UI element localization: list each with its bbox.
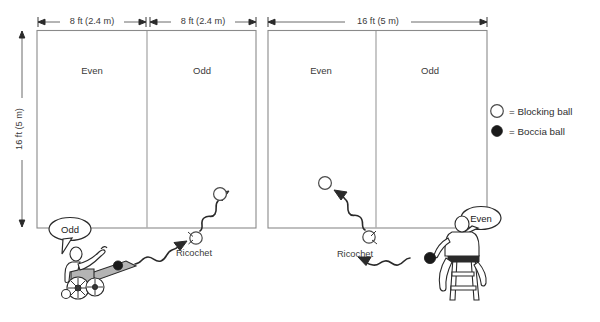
legend-item-boccia-ball: = Boccia ball (492, 126, 565, 137)
left-court-zone-odd-label: Odd (193, 65, 211, 76)
ramp-boccia-ball (113, 261, 122, 270)
right-ricochet-ball (363, 231, 377, 244)
left-blocking-ball (214, 188, 227, 201)
dimension-right-full: 16 ft (5 m) (268, 14, 487, 29)
legend-open-circle-icon (491, 105, 504, 118)
left-speech-bubble: Odd (49, 218, 91, 255)
right-bubble-label: Even (470, 213, 492, 224)
left-court-zone-even-label: Even (81, 65, 103, 76)
dimension-label-vertical: 16 ft (5 m) (14, 108, 24, 150)
legend: = Blocking ball = Boccia ball (491, 105, 573, 137)
right-ricochet-label: Ricochet (337, 249, 374, 259)
right-ball-path-second (334, 190, 365, 230)
dimension-left-half-b: 8 ft (2.4 m) (150, 14, 256, 29)
legend-filled-circle-icon (492, 126, 503, 137)
right-blocking-ball (319, 177, 332, 190)
dimension-label-right: 16 ft (5 m) (357, 16, 399, 26)
left-ricochet-ball (188, 232, 202, 244)
diagram-canvas: 8 ft (2.4 m) 8 ft (2.4 m) 16 ft (5 m) (0, 0, 600, 322)
dimension-label-left-b: 8 ft (2.4 m) (181, 16, 225, 26)
left-ricochet-label: Ricochet (176, 248, 213, 258)
right-court-zone-even-label: Even (310, 65, 332, 76)
dimension-label-left-a: 8 ft (2.4 m) (70, 16, 114, 26)
right-court-zone-odd-label: Odd (421, 65, 439, 76)
right-court: Even Odd (268, 31, 487, 229)
dimension-left-half-a: 8 ft (2.4 m) (38, 14, 146, 29)
wheelchair-athlete-figure (62, 247, 137, 299)
legend-label-blocking-ball: = Blocking ball (509, 106, 572, 117)
dimension-vertical: 16 ft (5 m) (14, 31, 30, 227)
legend-label-boccia-ball: = Boccia ball (509, 126, 565, 137)
held-boccia-ball (424, 252, 435, 263)
legend-item-blocking-ball: = Blocking ball (491, 105, 573, 118)
left-bubble-label: Odd (61, 224, 79, 235)
